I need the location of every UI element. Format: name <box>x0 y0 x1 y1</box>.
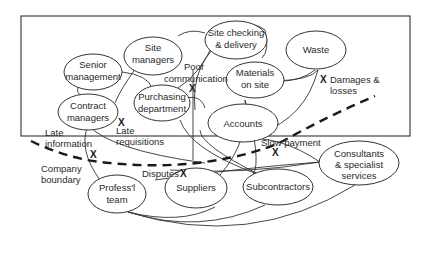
svg-text:Site checking: Site checking <box>208 27 265 38</box>
node-senior-management: Senior management <box>64 54 122 90</box>
svg-text:Materials: Materials <box>236 67 275 78</box>
svg-text:managers: managers <box>132 54 174 65</box>
svg-text:management: management <box>65 71 121 82</box>
svg-text:Disputes: Disputes <box>142 168 179 179</box>
svg-text:X: X <box>180 168 187 179</box>
node-consultants-specialist-services: Consultants & specialist services <box>319 141 399 185</box>
node-subcontractors: Subcontractors <box>243 169 313 205</box>
svg-text:Senior: Senior <box>79 59 106 70</box>
svg-text:team: team <box>106 194 127 205</box>
svg-text:Accounts: Accounts <box>223 118 262 129</box>
annotation-company-boundary: Company boundary <box>41 163 82 185</box>
svg-text:Damages &: Damages & <box>330 74 380 85</box>
svg-text:losses: losses <box>330 85 357 96</box>
svg-text:& delivery: & delivery <box>215 39 257 50</box>
node-contract-managers: Contract managers <box>58 94 118 130</box>
svg-text:on site: on site <box>241 79 269 90</box>
annotation-damages-losses: X Damages & losses <box>320 74 380 96</box>
svg-text:& specialist: & specialist <box>335 159 383 170</box>
svg-text:Purchasing: Purchasing <box>138 91 186 102</box>
svg-text:department: department <box>138 103 186 114</box>
svg-text:communication: communication <box>164 73 228 84</box>
svg-text:X: X <box>320 74 327 85</box>
node-professional-team: Profess'l team <box>88 175 146 213</box>
svg-text:Site: Site <box>145 42 161 53</box>
annotation-late-information: Late information X <box>45 127 97 160</box>
svg-text:requisitions: requisitions <box>116 136 164 147</box>
svg-text:Consultants: Consultants <box>334 148 384 159</box>
svg-text:Late: Late <box>116 125 135 136</box>
annotation-slow-payment: Slow payment X <box>261 137 321 158</box>
svg-text:Late: Late <box>45 127 64 138</box>
node-materials-on-site: Materials on site <box>226 62 284 98</box>
node-site-checking-delivery: Site checking & delivery <box>205 21 267 59</box>
svg-text:Suppliers: Suppliers <box>176 182 216 193</box>
svg-text:X: X <box>272 147 279 158</box>
svg-text:Slow payment: Slow payment <box>261 137 321 148</box>
annotation-late-requisitions: X Late requisitions <box>116 117 164 147</box>
annotation-disputes: Disputes X <box>142 168 187 179</box>
svg-text:Profess'l: Profess'l <box>99 182 135 193</box>
svg-text:Poor: Poor <box>184 61 204 72</box>
node-purchasing-department: Purchasing department <box>134 85 190 121</box>
svg-text:services: services <box>342 170 377 181</box>
svg-text:information: information <box>45 138 92 149</box>
svg-text:Waste: Waste <box>303 44 330 55</box>
svg-text:Subcontractors: Subcontractors <box>246 181 310 192</box>
node-waste: Waste <box>286 31 346 69</box>
svg-text:Company: Company <box>41 163 82 174</box>
svg-text:X: X <box>189 83 196 94</box>
svg-text:managers: managers <box>67 112 109 123</box>
svg-text:X: X <box>90 149 97 160</box>
svg-text:Contract: Contract <box>70 100 106 111</box>
node-site-managers: Site managers <box>124 37 182 75</box>
organisation-network-diagram: Site managers Senior management Site che… <box>0 0 430 265</box>
svg-text:boundary: boundary <box>41 174 81 185</box>
